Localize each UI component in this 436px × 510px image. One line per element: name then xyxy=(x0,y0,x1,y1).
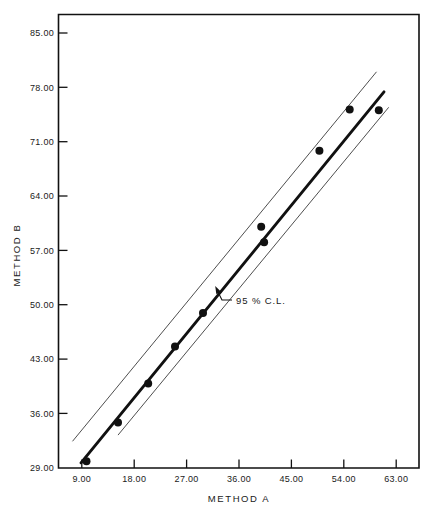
data-point xyxy=(144,380,152,388)
data-point xyxy=(114,419,122,427)
upper-confidence-limit-line xyxy=(73,72,377,442)
confidence-annotation: 95 % C.L. xyxy=(215,286,286,306)
data-points xyxy=(83,106,383,466)
scatter-regression-chart: 85.00 78.00 71.00 64.00 57.00 50.00 43.0… xyxy=(0,0,436,510)
data-point xyxy=(346,106,354,114)
x-axis-tick-labels: 9.00 18.00 27.00 36.00 45.00 54.00 63.00 xyxy=(72,474,408,484)
data-point xyxy=(171,342,179,350)
x-axis-ticks xyxy=(82,460,396,469)
y-tick-label: 85.00 xyxy=(30,28,54,38)
y-tick-label: 29.00 xyxy=(30,463,54,473)
confidence-limit-label: 95 % C.L. xyxy=(236,295,286,306)
data-point xyxy=(260,238,268,246)
x-tick-label: 36.00 xyxy=(227,474,251,484)
y-tick-label: 50.00 xyxy=(30,300,54,310)
x-axis-title: METHOD A xyxy=(208,493,270,504)
lower-confidence-limit-line xyxy=(118,107,389,435)
data-point xyxy=(315,147,323,155)
x-tick-label: 9.00 xyxy=(72,474,91,484)
data-point xyxy=(375,106,383,114)
y-axis-ticks xyxy=(59,33,68,413)
y-tick-label: 43.00 xyxy=(30,354,54,364)
regression-line xyxy=(81,92,384,463)
x-tick-label: 45.00 xyxy=(279,474,303,484)
y-tick-label: 57.00 xyxy=(30,246,54,256)
y-tick-label: 36.00 xyxy=(30,409,54,419)
y-tick-label: 78.00 xyxy=(30,83,54,93)
data-point xyxy=(83,457,91,465)
y-tick-label: 71.00 xyxy=(30,137,54,147)
data-point xyxy=(257,223,265,231)
x-tick-label: 18.00 xyxy=(122,474,146,484)
data-point xyxy=(199,309,207,317)
y-axis-title: METHOD B xyxy=(11,224,22,287)
plot-frame xyxy=(59,15,420,469)
y-axis-tick-labels: 85.00 78.00 71.00 64.00 57.00 50.00 43.0… xyxy=(30,28,54,473)
x-tick-label: 54.00 xyxy=(332,474,356,484)
x-tick-label: 27.00 xyxy=(175,474,199,484)
y-tick-label: 64.00 xyxy=(30,191,54,201)
x-tick-label: 63.00 xyxy=(384,474,408,484)
